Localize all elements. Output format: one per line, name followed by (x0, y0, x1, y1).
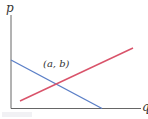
supply-demand-chart (0, 0, 148, 119)
intersection-label: (a, b) (43, 59, 70, 69)
y-axis-label: p (6, 2, 14, 14)
x-axis-label: q (142, 101, 148, 113)
figure-caption-faded (2, 112, 32, 117)
